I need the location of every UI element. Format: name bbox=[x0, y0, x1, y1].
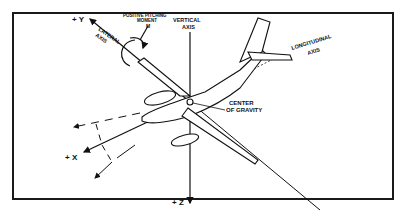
pitching-moment-symbol: M bbox=[146, 23, 150, 29]
vertical-axis-label-1: VERTICAL bbox=[173, 17, 201, 23]
aircraft-axes-diagram: + Y LATERAL AXIS POSITIVE PITCHING MOMEN… bbox=[0, 0, 407, 223]
vertical-axis-label-2: AXIS bbox=[182, 24, 195, 30]
airplane-illustration bbox=[138, 18, 292, 164]
roll-indicator bbox=[74, 113, 140, 178]
longitudinal-axis-label-2: AXIS bbox=[307, 46, 321, 56]
y-axis-label: + Y bbox=[72, 15, 85, 24]
cg-label-2: OF GRAVITY bbox=[226, 107, 262, 113]
z-axis-label: + Z bbox=[172, 198, 184, 207]
cg-label-1: CENTER bbox=[229, 100, 254, 106]
x-axis-label: + X bbox=[65, 153, 78, 162]
lateral-axis bbox=[90, 19, 320, 210]
